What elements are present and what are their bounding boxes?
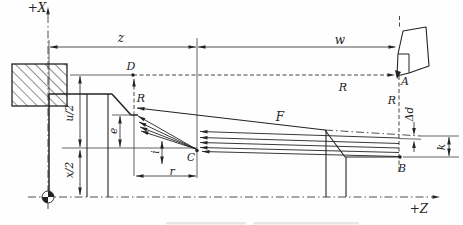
- diag2-arrow-icon: [138, 120, 146, 126]
- dim-r-label: r: [169, 165, 175, 178]
- u2-arrow-top-icon: [78, 76, 82, 84]
- pass-line-4: [200, 148, 399, 153]
- chuck-hatched-block: [12, 64, 67, 106]
- origin-quadrant-sw: [42, 197, 48, 203]
- rapid-R-retract-label: R: [136, 92, 145, 105]
- dim-k-label: k: [435, 144, 447, 150]
- taper-F: [137, 108, 325, 130]
- e-arrow-bottom-icon: [118, 140, 122, 148]
- taper-extension: [325, 130, 421, 136]
- cut-diagonal-2: [139, 122, 196, 149]
- point-C-label: C: [187, 151, 195, 163]
- diag1-arrow-icon: [137, 114, 145, 121]
- rapid-R-plunge-label: R: [387, 94, 396, 107]
- x2-arrow-top-icon: [78, 150, 82, 158]
- pass1-extension: [399, 139, 421, 140]
- dim-x2-label: x/2: [63, 162, 75, 178]
- r-arrow-right-icon: [189, 174, 197, 178]
- pass5-arrow-icon: [202, 150, 210, 154]
- dim-z-label: z: [117, 31, 125, 45]
- dd-arrow-up-icon: [412, 141, 416, 149]
- dim-dd-label: Δd: [403, 107, 415, 123]
- dim-e-label: e: [107, 128, 119, 134]
- diagram-svg: +X+ZzwDABCRRRFeiru/2x/2Δdk: [0, 0, 463, 225]
- z-dim-arrow-left-icon: [50, 45, 58, 49]
- chamfer-right: [325, 130, 345, 157]
- e-arrow-top-icon: [118, 116, 122, 124]
- u2-arrow-bottom-icon: [78, 140, 82, 148]
- k-arrow-top-icon: [447, 137, 451, 145]
- pass-line-2: [200, 138, 399, 144]
- diag3-arrow-icon: [139, 125, 147, 131]
- dim-i-label: i: [149, 150, 161, 153]
- dim-u2-label: u/2: [63, 104, 75, 121]
- x-axis-arrow-icon: [46, 7, 50, 15]
- point-B-label: B: [397, 162, 406, 175]
- feed-F-label: F: [275, 110, 285, 124]
- pass-line-1: [200, 132, 399, 139]
- cropped-caption-smudge: [253, 222, 359, 225]
- cut-diagonal-3: [140, 127, 196, 149]
- pass3-arrow-icon: [200, 141, 208, 145]
- i-arrow-bottom-icon: [160, 157, 164, 165]
- pass-line-3: [200, 143, 399, 149]
- w-dim-arrow-left-icon: [198, 45, 206, 49]
- i-arrow-top-icon: [160, 141, 164, 149]
- z-axis-arrow-icon: [433, 195, 441, 199]
- axis-x-label: +X: [28, 1, 47, 15]
- k-arrow-bottom-icon: [447, 149, 451, 157]
- dim-w-label: w: [335, 33, 346, 47]
- point-C-dot: [195, 149, 198, 152]
- rapid-to-A-arrow-icon: [388, 73, 396, 77]
- point-D-label: D: [126, 60, 136, 73]
- rapid-R-return-label: R: [338, 81, 347, 94]
- pass2-arrow-icon: [200, 136, 208, 140]
- z-dim-arrow-right-icon: [189, 45, 197, 49]
- point-A-label: A: [400, 75, 409, 88]
- cropped-caption-smudge: [166, 222, 246, 225]
- retract-up-arrow-icon: [132, 79, 136, 87]
- tool-insert: [397, 27, 429, 76]
- pass-line-5: [202, 152, 399, 157]
- point-D-dot: [131, 73, 134, 76]
- origin-quadrant-ne: [48, 191, 54, 197]
- chamfer-left: [112, 94, 131, 115]
- x2-arrow-bottom-icon: [78, 188, 82, 196]
- dd-arrow-down-icon: [412, 128, 416, 136]
- pass1-arrow-icon: [200, 130, 208, 134]
- point-B-dot: [398, 155, 402, 159]
- w-dim-arrow-right-icon: [389, 45, 397, 49]
- pass4-arrow-icon: [200, 146, 208, 150]
- taper-cycle-diagram: +X+ZzwDABCRRRFeiru/2x/2Δdk: [0, 0, 463, 225]
- r-arrow-left-icon: [136, 174, 144, 178]
- axis-z-label: +Z: [410, 202, 429, 216]
